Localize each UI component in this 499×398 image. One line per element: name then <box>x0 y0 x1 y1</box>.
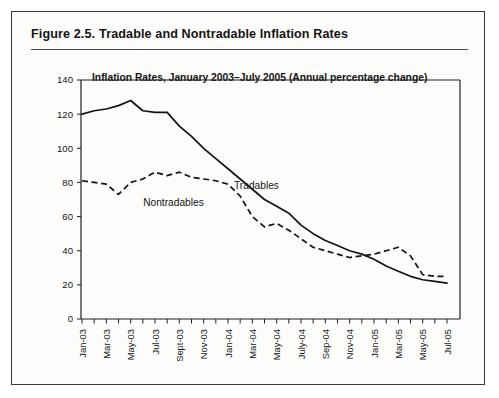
x-tick-label: Jan-05 <box>369 329 380 358</box>
figure-frame: Figure 2.5.Tradable and Nontradable Infl… <box>11 11 485 385</box>
y-tick-label: 120 <box>57 109 73 120</box>
x-tick-label: Jan-03 <box>77 329 88 358</box>
y-axis-group: 020406080100120140 <box>57 74 81 324</box>
x-tick-label: Sept-03 <box>174 329 185 362</box>
y-tick-label: 40 <box>62 245 73 256</box>
series-label-tradables: Tradables <box>234 180 279 191</box>
y-tick-label: 140 <box>57 74 73 85</box>
x-tick-label: Jan-04 <box>223 329 234 358</box>
x-tick-label: Jul-05 <box>442 329 453 355</box>
series-line-tradables <box>82 100 447 283</box>
x-tick-label: July-04 <box>296 329 307 359</box>
y-tick-label: 60 <box>62 211 73 222</box>
y-tick-label: 20 <box>62 279 73 290</box>
y-tick-label: 0 <box>68 313 73 324</box>
x-tick-label: May-04 <box>271 329 282 360</box>
x-tick-label: Mar-05 <box>393 329 404 359</box>
x-axis-ticks: Jan-03Mar-03May-03Jul-03Sept-03Nov-03Jan… <box>77 319 453 362</box>
data-series-group <box>82 100 447 283</box>
y-tick-label: 80 <box>62 177 73 188</box>
x-tick-label: May-05 <box>417 329 428 360</box>
x-tick-label: Nov-03 <box>198 329 209 359</box>
plot-border <box>81 80 460 319</box>
x-tick-label: Mar-03 <box>101 329 112 359</box>
x-tick-label: May-03 <box>125 329 136 360</box>
y-axis-ticks: 020406080100120140 <box>57 74 81 324</box>
series-label-nontradables: Nontradables <box>143 197 204 208</box>
x-tick-label: Jul-03 <box>150 329 161 355</box>
y-tick-label: 100 <box>57 143 73 154</box>
x-tick-label: Sep-04 <box>320 329 331 359</box>
x-tick-label: Mar-04 <box>247 329 258 359</box>
x-axis-group: Jan-03Mar-03May-03Jul-03Sept-03Nov-03Jan… <box>77 319 460 362</box>
x-tick-label: Nov-04 <box>344 329 355 359</box>
inflation-rates-chart: 020406080100120140 Jan-03Mar-03May-03Jul… <box>12 12 486 386</box>
